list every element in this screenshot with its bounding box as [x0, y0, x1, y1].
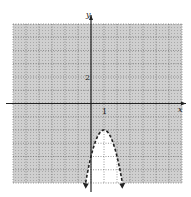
y-axis-label: y [85, 10, 91, 19]
x-tick-label: 1 [102, 107, 107, 116]
y-tick-label: 2 [85, 73, 90, 82]
curve-left-arrow-icon [83, 183, 89, 189]
curve-right-arrow-icon [119, 183, 125, 189]
x-axis-label: x [178, 105, 183, 114]
chart-canvas: x y 2 1 [0, 0, 191, 197]
